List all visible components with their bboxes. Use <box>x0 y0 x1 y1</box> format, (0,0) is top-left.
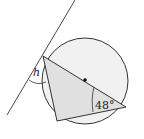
diagram-canvas <box>0 0 144 139</box>
circle-center <box>83 78 87 82</box>
geometry-diagram: h 48° <box>0 0 144 139</box>
angle-label-48: 48° <box>95 99 115 112</box>
angle-label-h: h <box>33 66 40 79</box>
